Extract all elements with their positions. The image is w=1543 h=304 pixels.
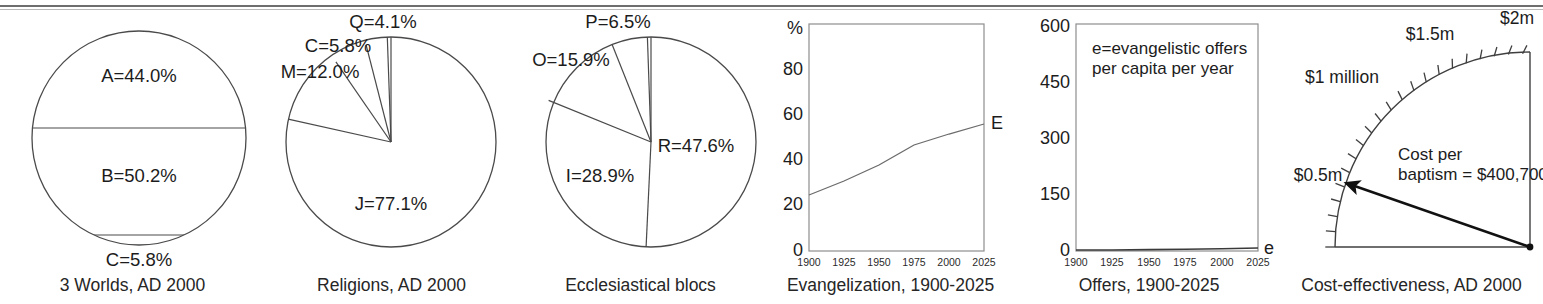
x-tick-1950: 1950	[867, 256, 891, 268]
y-tick-80: 80	[783, 59, 803, 79]
panel-caption-offers: Offers, 1900-2025	[1018, 275, 1280, 296]
y-tick-20: 20	[783, 194, 803, 214]
panel-caption-cost-effectiveness: Cost-effectiveness, AD 2000	[1280, 275, 1543, 296]
y-axis-unit: %	[787, 18, 803, 38]
series-endpoint-label-e: e	[1264, 238, 1274, 258]
panel-caption-ecclesiastical-blocs: Ecclesiastical blocs	[518, 275, 763, 296]
slice-label-m: M=12.0%	[281, 61, 360, 82]
slice-label-a: A=44.0%	[101, 65, 177, 86]
chart-evangelization: % 80 60 40 20 0 E 1900 1925 1950 1975 20…	[763, 10, 1018, 272]
x-tick-2025: 2025	[972, 256, 996, 268]
pie-outline	[32, 31, 246, 245]
panel-caption-religions: Religions, AD 2000	[265, 275, 518, 296]
slice-label-p: P=6.5%	[585, 11, 650, 32]
plot-frame	[809, 24, 984, 251]
slice-label-c: C=5.8%	[305, 35, 371, 56]
gauge-value-line-1: Cost per	[1398, 145, 1463, 164]
x-tick-1900: 1900	[797, 256, 821, 268]
chart-three-worlds: A=44.0% B=50.2% C=5.8%	[0, 10, 265, 272]
gauge-value-line-2: baptism = $400,700	[1398, 165, 1543, 184]
x-tick-2000: 2000	[937, 256, 961, 268]
y-tick-600: 600	[1040, 16, 1070, 36]
x-tick-1950: 1950	[1137, 256, 1161, 268]
chart-offers: 600 450 300 150 0 e=evangelistic offers …	[1018, 10, 1280, 272]
x-tick-1975: 1975	[1173, 256, 1197, 268]
x-tick-1925: 1925	[1100, 256, 1124, 268]
panel-caption-three-worlds: 3 Worlds, AD 2000	[0, 275, 265, 296]
x-tick-1925: 1925	[832, 256, 856, 268]
series-endpoint-label-e: E	[991, 113, 1003, 133]
annotation-line-2: per capita per year	[1092, 59, 1234, 78]
slice-label-o: O=15.9%	[532, 49, 610, 70]
panel-caption-evangelization: Evangelization, 1900-2025	[763, 275, 1018, 296]
y-tick-60: 60	[783, 104, 803, 124]
gauge-label-two-million: $2m	[1500, 8, 1534, 28]
annotation-line-1: e=evangelistic offers	[1092, 39, 1247, 58]
panel-offers: 600 450 300 150 0 e=evangelistic offers …	[1018, 0, 1280, 304]
y-tick-450: 450	[1040, 72, 1070, 92]
x-tick-1975: 1975	[902, 256, 926, 268]
x-tick-2000: 2000	[1210, 256, 1234, 268]
chart-cost-effectiveness: $0.5m $1 million $1.5m $2m Cost per bapt…	[1280, 10, 1543, 272]
y-tick-300: 300	[1040, 128, 1070, 148]
gauge-label-half-million: $0.5m	[1294, 165, 1343, 185]
gauge-needle	[1346, 183, 1530, 247]
panel-religions: J=77.1% Q=4.1% C=5.8% M=12.0% Religions,…	[265, 0, 518, 304]
y-tick-40: 40	[783, 149, 803, 169]
slice-label-b: B=50.2%	[101, 165, 177, 186]
x-tick-2025: 2025	[1246, 256, 1270, 268]
slice-label-c: C=5.8%	[106, 249, 172, 270]
gauge-pivot	[1527, 244, 1534, 251]
chart-ecclesiastical-blocs: R=47.6% I=28.9% P=6.5% O=15.9%	[518, 10, 763, 272]
y-tick-150: 150	[1040, 184, 1070, 204]
slice-label-r: R=47.6%	[658, 135, 735, 156]
chart-religions: J=77.1% Q=4.1% C=5.8% M=12.0%	[265, 10, 518, 272]
figure-panel-strip: A=44.0% B=50.2% C=5.8% 3 Worlds, AD 2000	[0, 0, 1543, 304]
panel-cost-effectiveness: $0.5m $1 million $1.5m $2m Cost per bapt…	[1280, 0, 1543, 304]
panel-three-worlds: A=44.0% B=50.2% C=5.8% 3 Worlds, AD 2000	[0, 0, 265, 304]
slice-label-i: I=28.9%	[566, 165, 634, 186]
gauge-label-one-point-five-million: $1.5m	[1406, 24, 1455, 44]
slice-label-q: Q=4.1%	[349, 11, 416, 32]
gauge-label-one-million: $1 million	[1305, 67, 1379, 87]
panel-evangelization: % 80 60 40 20 0 E 1900 1925 1950 1975 20…	[763, 0, 1018, 304]
panel-ecclesiastical-blocs: R=47.6% I=28.9% P=6.5% O=15.9% Ecclesias…	[518, 0, 763, 304]
slice-label-j: J=77.1%	[355, 193, 428, 214]
x-tick-1900: 1900	[1064, 256, 1088, 268]
